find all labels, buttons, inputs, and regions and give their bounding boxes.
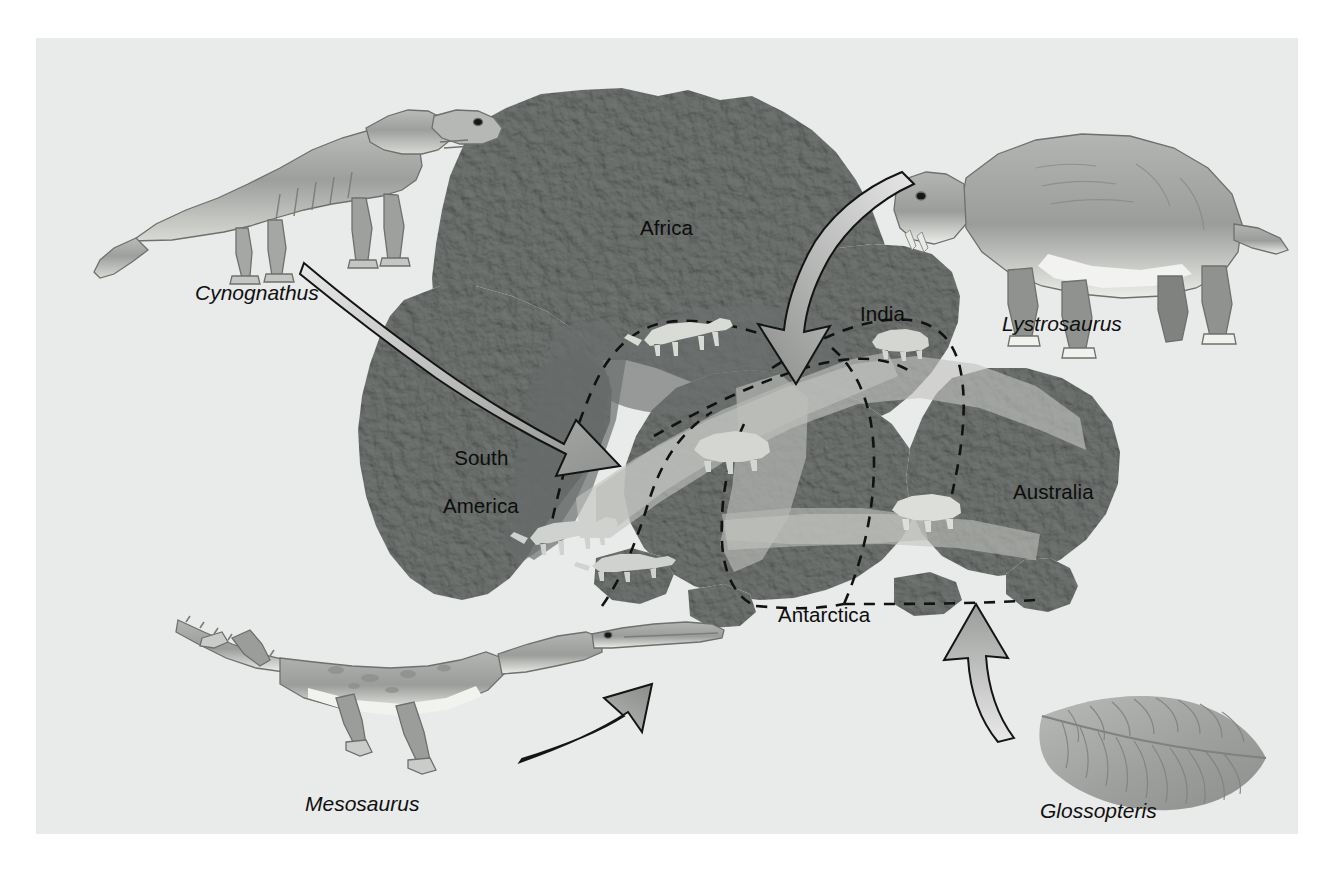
figure-panel: Africa South America India Australia Ant…: [36, 38, 1298, 834]
label-australia: Australia: [1013, 480, 1094, 504]
label-lystrosaurus: Lystrosaurus: [1002, 312, 1122, 336]
label-india: India: [860, 302, 905, 326]
label-south-america: South America: [404, 422, 524, 542]
label-antarctica: Antarctica: [778, 603, 870, 627]
arrow-lystrosaurus: [758, 172, 914, 384]
arrow-glossopteris: [944, 604, 1014, 742]
arrow-mesosaurus: [520, 684, 652, 762]
label-cynognathus: Cynognathus: [195, 281, 319, 305]
label-south-america-line1: South: [454, 446, 508, 469]
label-glossopteris: Glossopteris: [1040, 799, 1157, 823]
pangaea-diagram: Africa South America India Australia Ant…: [36, 38, 1298, 834]
label-mesosaurus: Mesosaurus: [305, 792, 419, 816]
label-africa: Africa: [640, 216, 693, 240]
arrow-layer: [36, 38, 1298, 834]
label-south-america-line2: America: [443, 494, 519, 517]
